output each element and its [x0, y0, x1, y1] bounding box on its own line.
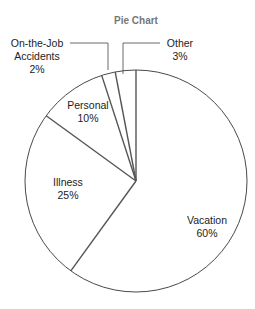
label-name-2: Accidents	[4, 50, 70, 63]
label-pct: 25%	[38, 189, 98, 202]
label-pct: 60%	[172, 227, 242, 240]
label-name: Illness	[38, 176, 98, 189]
slice-label-other: Other 3%	[160, 37, 200, 63]
label-pct: 10%	[58, 112, 118, 125]
slice-label-accidents: On-the-Job Accidents 2%	[4, 37, 70, 76]
label-name: On-the-Job	[4, 37, 70, 50]
leader-lines	[70, 43, 160, 74]
label-pct: 2%	[4, 63, 70, 76]
slice-label-personal: Personal 10%	[58, 99, 118, 125]
slice-label-vacation: Vacation 60%	[172, 214, 242, 240]
leader-line-accidents	[70, 43, 108, 70]
label-name: Vacation	[172, 214, 242, 227]
label-name: Other	[160, 37, 200, 50]
slice-label-illness: Illness 25%	[38, 176, 98, 202]
leader-line-other	[123, 43, 160, 74]
label-pct: 3%	[160, 50, 200, 63]
label-name: Personal	[58, 99, 118, 112]
